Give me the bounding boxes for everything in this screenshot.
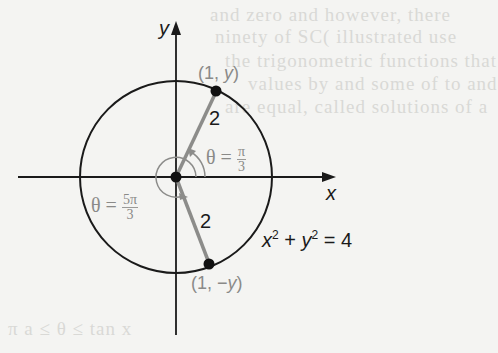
x-axis-arrow-icon: [322, 172, 336, 182]
point-label-lead: (1,: [198, 63, 224, 83]
segment-length-label: 2: [209, 107, 220, 130]
angle-label-5pi-over-3: θ = 5π3: [91, 193, 138, 222]
equals-sign: =: [216, 146, 237, 168]
angle-label-pi-over-3: θ = π3: [206, 145, 246, 174]
theta-symbol: θ: [206, 146, 216, 168]
origin-point: [171, 172, 182, 183]
fraction-denominator: 3: [126, 208, 133, 222]
equation-plus: +: [279, 229, 302, 251]
point-label-tail: ): [237, 273, 243, 293]
point-1-y: [211, 86, 222, 97]
equation-y: y: [301, 229, 311, 251]
y-axis-arrow-icon: [171, 21, 181, 35]
segment-length-label: 2: [200, 210, 211, 233]
equation-rhs: = 4: [318, 229, 352, 251]
fraction-numerator: π: [237, 145, 246, 160]
circle-equation: x2 + y2 = 4: [262, 228, 352, 252]
fraction: 5π3: [122, 193, 138, 222]
equation-x: x: [262, 229, 272, 251]
y-axis-label: y: [159, 17, 169, 40]
point-label-tail: ): [233, 63, 239, 83]
point-label-var: y: [224, 63, 233, 83]
fraction-denominator: 3: [238, 160, 245, 174]
x-axis-label: x: [326, 182, 336, 205]
fraction-numerator: 5π: [122, 193, 138, 208]
theta-symbol: θ: [91, 194, 101, 216]
equation-exponent: 2: [272, 228, 279, 242]
angle-arc-pi-over-3: [191, 152, 205, 177]
equals-sign: =: [101, 194, 122, 216]
point-label-1-y: (1, y): [198, 63, 239, 84]
point-label-1-neg-y: (1, −y): [191, 273, 243, 294]
point-label-var: y: [228, 273, 237, 293]
point-1-neg-y: [204, 259, 215, 270]
point-label-lead: (1, −: [191, 273, 228, 293]
fraction: π3: [237, 145, 246, 174]
